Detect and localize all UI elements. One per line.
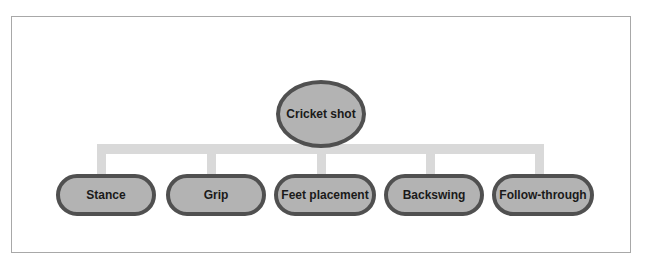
node-backswing: Backswing	[384, 174, 484, 216]
node-stance: Stance	[56, 174, 156, 216]
root-node-cricket-shot: Cricket shot	[276, 80, 366, 148]
node-label: Stance	[86, 188, 125, 202]
node-label: Grip	[204, 188, 229, 202]
stem-backswing	[426, 144, 435, 176]
node-follow-through: Follow-through	[492, 174, 594, 216]
node-label: Backswing	[403, 188, 466, 202]
root-node-label: Cricket shot	[286, 107, 355, 121]
stem-follow-through	[535, 144, 544, 176]
stem-grip	[207, 144, 216, 176]
stem-feet-placement	[317, 144, 326, 176]
node-grip: Grip	[166, 174, 266, 216]
node-feet-placement: Feet placement	[274, 174, 376, 216]
node-label: Follow-through	[499, 188, 586, 202]
stem-stance	[97, 144, 106, 176]
node-label: Feet placement	[281, 188, 368, 202]
